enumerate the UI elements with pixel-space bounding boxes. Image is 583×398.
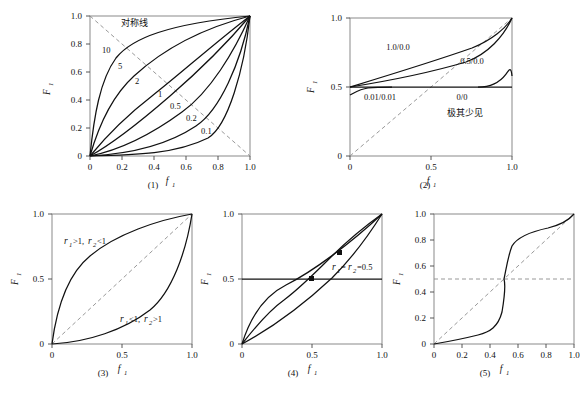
svg-text:<1: <1 (97, 236, 106, 246)
panel-1-ylabel: F 1 (42, 83, 54, 96)
svg-text:>1,: >1, (73, 236, 84, 246)
xtick-label: 1.0 (568, 350, 580, 360)
panel-2-xticks (350, 156, 512, 160)
svg-text:r: r (332, 262, 336, 272)
ytick-label: 1.0 (33, 209, 45, 219)
xtick-label: 0.4 (148, 162, 160, 172)
panel-4-xticks (242, 344, 382, 348)
panel-2-caption: (2) (300, 180, 550, 190)
panel-1-plot: 0 0.2 0.4 0.6 0.8 1.0 0 0.2 0.4 0.6 0.8 … (28, 4, 278, 189)
svg-text:r: r (144, 314, 148, 324)
curve-label-10: 10 (102, 45, 111, 55)
label-0p01-0p01: 0.01/0.01 (364, 92, 396, 102)
svg-text:F: F (200, 279, 210, 286)
panel-2-yticks (346, 18, 350, 156)
panel-5-yticks (430, 214, 434, 344)
xtick-label: 0 (348, 162, 353, 172)
svg-text:1: 1 (397, 273, 404, 276)
symmetry-line-label: 对称线 (121, 17, 148, 28)
panel-4-caption: (4) (198, 368, 388, 378)
xtick-label: 0.5 (306, 350, 318, 360)
label-r1gt1-r2lt1: r 1 >1, r 2 <1 (64, 236, 106, 248)
panel-1-xticks (90, 156, 250, 160)
panel-5-plot: 0 0.2 0.4 0.6 0.8 1.0 0 0.2 0.4 0.6 0.8 … (390, 200, 580, 375)
panel-3-xticks (52, 344, 192, 348)
svg-text:1: 1 (15, 273, 22, 276)
panel-3-plot: 0 0.5 1.0 0 0.5 1.0 F 1 f 1 r 1 >1, r (8, 200, 198, 375)
panel-2-plot: 0 0.5 1.0 0 0.5 1.0 F 1 f 1 1.0/0.0 0.5/… (300, 4, 550, 189)
svg-text:=: = (341, 262, 346, 272)
curve-label-0p1: 0.1 (201, 126, 212, 136)
xtick-label: 0 (88, 162, 93, 172)
ytick-label: 1.0 (415, 209, 427, 219)
xtick-label: 0.5 (425, 162, 437, 172)
svg-text:1: 1 (125, 319, 128, 326)
svg-text:r: r (88, 236, 92, 246)
label-r1-eq-r2-eq-0p5: r 1 = r 2 =0.5 (332, 262, 372, 274)
ytick-label: 0.6 (71, 67, 83, 77)
label-0p5-0p0: 0.5/0.0 (460, 56, 484, 66)
svg-text:1: 1 (311, 81, 318, 84)
symmetry-line (90, 16, 250, 156)
panel-5-xticks (434, 344, 574, 348)
xtick-label: 0.4 (484, 350, 496, 360)
xtick-label: 0.6 (180, 162, 192, 172)
label-1p0-0p0: 1.0/0.0 (386, 42, 410, 52)
svg-text:<1,: <1, (129, 314, 140, 324)
marker-point-upper (337, 250, 342, 255)
ytick-label: 0.8 (71, 39, 83, 49)
xtick-label: 1.0 (186, 350, 198, 360)
curve-label-1: 1 (158, 89, 162, 99)
svg-text:r: r (64, 236, 68, 246)
panel-5-ylabel: F 1 (392, 273, 404, 286)
curve-0-0 (478, 70, 512, 87)
xtick-label: 0 (50, 350, 55, 360)
xtick-label: 0.8 (540, 350, 552, 360)
panel-3-caption: (3) (8, 368, 198, 378)
curve-label-0p5: 0.5 (170, 101, 181, 111)
marker-point-mid (309, 276, 314, 281)
svg-text:1: 1 (47, 83, 54, 86)
ytick-label: 1.0 (331, 13, 343, 23)
panel-1: 0 0.2 0.4 0.6 0.8 1.0 0 0.2 0.4 0.6 0.8 … (28, 4, 278, 189)
ytick-label: 0 (338, 151, 343, 161)
ytick-label: 0.8 (415, 235, 427, 245)
ytick-label: 0 (422, 339, 427, 349)
panel-5-caption: (5) (390, 368, 580, 378)
ytick-label: 0.4 (415, 287, 427, 297)
panel-2-ylabel: F 1 (306, 81, 318, 94)
xtick-label: 0.5 (116, 350, 128, 360)
ytick-label: 0.4 (71, 95, 83, 105)
label-0-0: 0/0 (457, 92, 468, 102)
curve-label-2: 2 (135, 76, 139, 86)
label-extremely-rare: 极其少见 (447, 107, 483, 118)
xtick-label: 0.2 (116, 162, 127, 172)
xtick-label: 0.6 (512, 350, 524, 360)
ytick-label: 0.2 (415, 313, 426, 323)
figure-container: 0 0.2 0.4 0.6 0.8 1.0 0 0.2 0.4 0.6 0.8 … (0, 0, 583, 398)
svg-text:1: 1 (69, 241, 72, 248)
svg-text:F: F (42, 89, 52, 96)
xtick-label: 1.0 (506, 162, 518, 172)
svg-text:1: 1 (205, 273, 212, 276)
panel-3-yticks (48, 214, 52, 344)
svg-text:=0.5: =0.5 (357, 262, 372, 272)
curve-1p0-0p0 (350, 18, 512, 87)
xtick-label: 0 (432, 350, 437, 360)
ytick-label: 0.5 (33, 274, 45, 284)
svg-text:F: F (10, 279, 20, 286)
svg-text:1: 1 (337, 267, 340, 274)
panel-1-yticks (86, 16, 90, 156)
curve-label-5: 5 (118, 61, 122, 71)
xtick-label: 0.8 (212, 162, 224, 172)
svg-text:>1: >1 (153, 314, 162, 324)
xtick-label: 1.0 (244, 162, 256, 172)
ytick-label: 0.5 (331, 82, 343, 92)
ytick-label: 1.0 (71, 11, 83, 21)
panel-4-yticks (238, 214, 242, 344)
panel-2: 0 0.5 1.0 0 0.5 1.0 F 1 f 1 1.0/0.0 0.5/… (300, 4, 550, 189)
panel-3-ylabel: F 1 (10, 273, 22, 286)
panel-4-ylabel: F 1 (200, 273, 212, 286)
panel-3: 0 0.5 1.0 0 0.5 1.0 F 1 f 1 r 1 >1, r (8, 200, 198, 375)
diagonal-reference-line (52, 214, 192, 344)
